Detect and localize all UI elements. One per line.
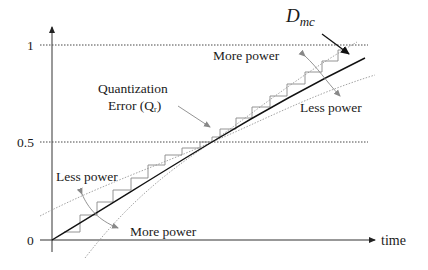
more-power-top-label: More power bbox=[213, 48, 280, 63]
power-range-arrow-top bbox=[305, 56, 340, 96]
dmc-pointer-arrow bbox=[322, 34, 349, 54]
y-tick-1: 1 bbox=[27, 38, 34, 53]
more-power-bottom-label: More power bbox=[130, 224, 197, 239]
quantization-diagram: 1 0.5 0 time Dmc Quantization Error (Qr)… bbox=[0, 0, 428, 270]
x-axis-label: time bbox=[381, 233, 406, 248]
quantization-label-line1: Quantization bbox=[98, 81, 168, 96]
y-tick-0.5: 0.5 bbox=[17, 135, 34, 150]
less-power-left-label: Less power bbox=[56, 169, 118, 184]
less-power-right-label: Less power bbox=[300, 100, 362, 115]
more-power-curve-upper bbox=[85, 42, 357, 258]
quantization-staircase bbox=[64, 50, 347, 232]
y-tick-0: 0 bbox=[27, 233, 34, 248]
quantization-pointer-arrow bbox=[178, 106, 210, 127]
quantization-label-line2: Error (Qr) bbox=[108, 98, 161, 114]
dmc-label: Dmc bbox=[285, 5, 315, 29]
